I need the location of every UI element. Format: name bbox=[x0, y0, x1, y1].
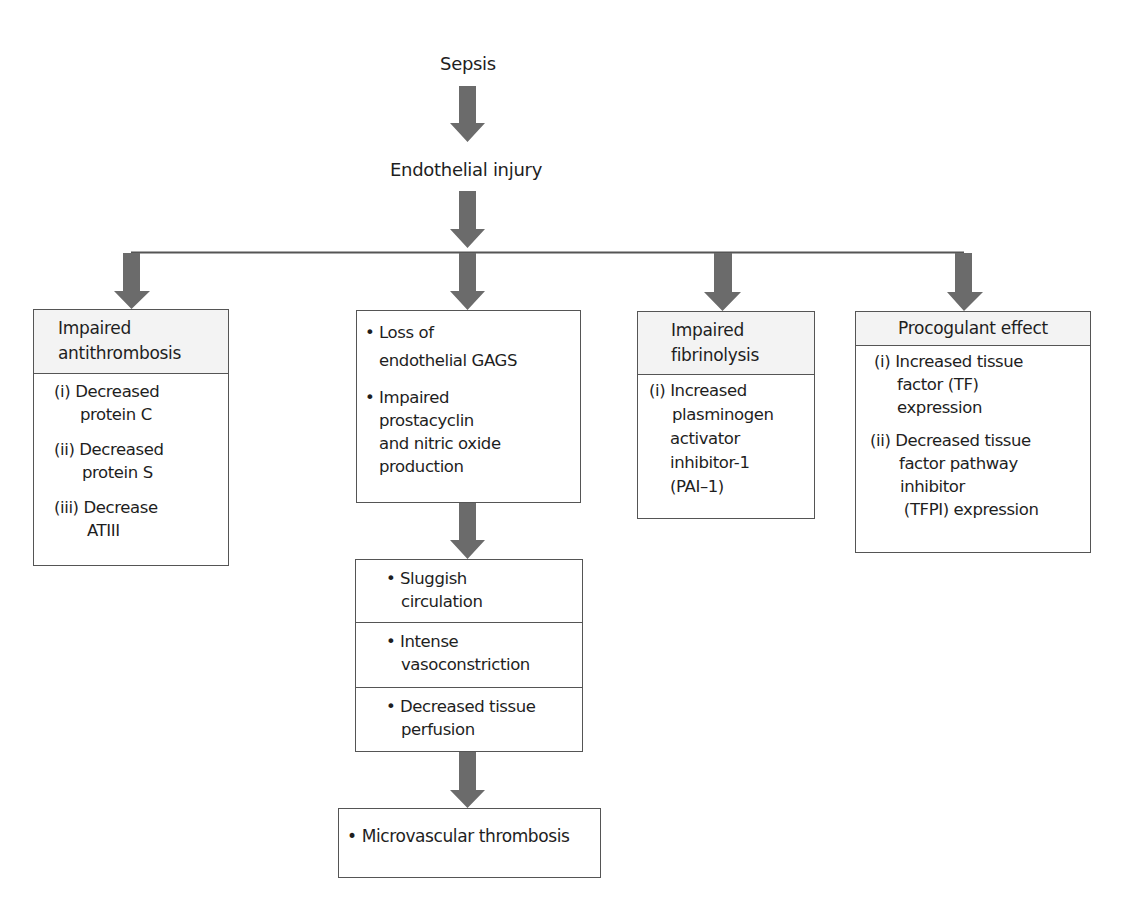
item-line: Sluggish bbox=[380, 567, 582, 590]
list-item: • Loss of endothelial GAGS bbox=[365, 321, 580, 372]
item-line: vasoconstriction bbox=[380, 653, 582, 676]
node-endothelial-injury: Endothelial injury bbox=[390, 161, 542, 179]
box-body: (i) Increased tissue factor (TF) express… bbox=[856, 346, 1090, 521]
item-line: circulation bbox=[380, 590, 582, 613]
box-header: Impaired fibrinolysis bbox=[638, 312, 814, 375]
list-item: • Impaired prostacyclin and nitric oxide… bbox=[365, 386, 580, 478]
arrow-down-icon bbox=[450, 191, 485, 248]
list-item: (ii) Decreased protein S bbox=[54, 438, 228, 484]
item-number: (i) bbox=[874, 352, 890, 371]
item-line: endothelial GAGS bbox=[379, 349, 580, 372]
outcome-text: • Microvascular thrombosis bbox=[339, 809, 600, 846]
list-item: (i) Decreased protein C bbox=[54, 380, 228, 426]
header-line: fibrinolysis bbox=[671, 343, 814, 368]
item-line: Impaired bbox=[379, 386, 580, 409]
item-line: activator bbox=[649, 427, 814, 451]
item-line: protein S bbox=[54, 461, 228, 484]
box-impaired-antithrombosis: Impaired antithrombosis (i) Decreased pr… bbox=[33, 309, 229, 566]
bullet-icon: • bbox=[365, 386, 374, 409]
outcome-label: Microvascular thrombosis bbox=[362, 826, 570, 846]
list-item: (i) Increased tissue factor (TF) express… bbox=[874, 350, 1090, 419]
item-line: Decreased tissue bbox=[380, 695, 582, 718]
box-header: Procogulant effect bbox=[856, 312, 1090, 346]
box-endothelial-dysfunction: • Loss of endothelial GAGS • Impaired pr… bbox=[356, 310, 581, 503]
item-line: perfusion bbox=[380, 718, 582, 741]
header-line: Impaired bbox=[671, 318, 814, 343]
item-line: Decreased tissue bbox=[895, 431, 1031, 450]
item-line: (TFPI) expression bbox=[870, 498, 1090, 521]
item-number: (i) bbox=[54, 382, 70, 401]
stack-cell-vasoconstriction: • Intense vasoconstriction bbox=[356, 623, 582, 688]
item-number: (iii) bbox=[54, 498, 79, 517]
box-procoagulant-effect: Procogulant effect (i) Increased tissue … bbox=[855, 311, 1091, 553]
item-line: (PAI–1) bbox=[649, 475, 814, 499]
item-line: Decrease bbox=[84, 498, 158, 517]
box-body: • Loss of endothelial GAGS • Impaired pr… bbox=[357, 311, 580, 478]
arrow-down-icon bbox=[450, 253, 485, 310]
item-line: plasminogen bbox=[649, 403, 814, 427]
item-line: Loss of bbox=[379, 321, 580, 344]
arrow-down-icon bbox=[947, 253, 983, 311]
item-line: factor pathway bbox=[870, 452, 1090, 475]
box-header: Impaired antithrombosis bbox=[34, 310, 228, 374]
header-line: antithrombosis bbox=[58, 341, 228, 366]
box-microvascular-thrombosis: • Microvascular thrombosis bbox=[338, 808, 601, 878]
item-number: (ii) bbox=[870, 431, 890, 450]
arrow-down-icon bbox=[704, 253, 741, 311]
bullet-icon: • bbox=[386, 695, 395, 718]
stack-cell-tissue-perfusion: • Decreased tissue perfusion bbox=[356, 688, 582, 750]
box-impaired-fibrinolysis: Impaired fibrinolysis (i) Increased plas… bbox=[637, 311, 815, 519]
item-line: Increased tissue bbox=[895, 352, 1023, 371]
header-line: Impaired bbox=[58, 316, 228, 341]
bullet-icon: • bbox=[347, 826, 357, 846]
bullet-icon: • bbox=[386, 567, 395, 590]
item-line: Increased bbox=[670, 381, 747, 400]
item-number: (ii) bbox=[54, 440, 74, 459]
item-line: factor (TF) bbox=[874, 373, 1090, 396]
header-line: Procogulant effect bbox=[856, 316, 1090, 341]
item-line: Decreased bbox=[79, 440, 163, 459]
item-line: protein C bbox=[54, 403, 228, 426]
node-sepsis: Sepsis bbox=[440, 55, 496, 73]
list-item: (i) Increased plasminogen activator inhi… bbox=[649, 379, 814, 499]
list-item: (iii) Decrease ATIII bbox=[54, 496, 228, 542]
bullet-icon: • bbox=[386, 630, 395, 653]
arrow-down-icon bbox=[450, 86, 485, 142]
item-line: production bbox=[379, 455, 580, 478]
item-line: and nitric oxide bbox=[379, 432, 580, 455]
arrow-down-icon bbox=[450, 751, 485, 808]
item-line: Decreased bbox=[75, 382, 159, 401]
arrow-down-icon bbox=[450, 502, 485, 559]
item-line: inhibitor-1 bbox=[649, 451, 814, 475]
box-circulation-effects: • Sluggish circulation • Intense vasocon… bbox=[355, 559, 583, 752]
item-number: (i) bbox=[649, 381, 665, 400]
box-body: (i) Increased plasminogen activator inhi… bbox=[638, 375, 814, 499]
box-body: (i) Decreased protein C (ii) Decreased p… bbox=[34, 374, 228, 542]
sepsis-flowchart: Sepsis Endothelial injury Impaired antit… bbox=[0, 0, 1135, 913]
stack-cell-sluggish-circulation: • Sluggish circulation bbox=[356, 560, 582, 623]
arrow-down-icon bbox=[114, 253, 150, 309]
list-item: (ii) Decreased tissue factor pathway inh… bbox=[870, 429, 1090, 521]
item-line: prostacyclin bbox=[379, 409, 580, 432]
item-line: inhibitor bbox=[870, 475, 1090, 498]
bullet-icon: • bbox=[365, 321, 374, 344]
item-line: ATIII bbox=[54, 519, 228, 542]
item-line: expression bbox=[874, 396, 1090, 419]
item-line: Intense bbox=[380, 630, 582, 653]
